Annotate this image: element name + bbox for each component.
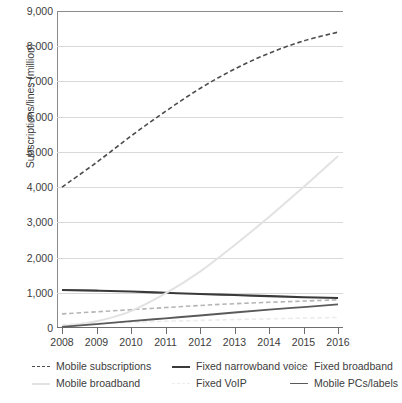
x-axis-tick-mark	[338, 328, 339, 334]
legend-swatch-icon	[172, 362, 190, 372]
y-axis-tick-label: 7,000	[7, 75, 53, 87]
series-line	[62, 304, 338, 327]
y-axis-tick-label: 2,000	[7, 252, 53, 264]
x-axis-tick-label: 2013	[223, 336, 246, 348]
x-axis-tick-mark	[97, 328, 98, 334]
legend-item[interactable]: Fixed narrowband voice	[172, 361, 307, 372]
y-axis-tick-label: 3,000	[7, 216, 53, 228]
x-axis-tick-label: 2014	[257, 336, 280, 348]
legend-item[interactable]: Mobile subscriptions	[32, 361, 151, 372]
legend-row: Mobile subscriptionsFixed narrowband voi…	[22, 358, 394, 375]
x-axis-tick-label: 2009	[85, 336, 108, 348]
y-axis-tick-label: 8,000	[7, 40, 53, 52]
x-axis-tick-label: 2015	[292, 336, 315, 348]
legend-label: Mobile PCs/labels	[314, 378, 398, 389]
legend-label: Mobile broadband	[56, 378, 140, 389]
y-axis-tick-label: 0	[7, 322, 53, 334]
chart-legend: Mobile subscriptionsFixed narrowband voi…	[22, 358, 394, 392]
x-axis-tick-label: 2008	[50, 336, 73, 348]
series-line	[62, 32, 338, 187]
series-line	[62, 290, 338, 298]
x-axis-tick-label: 2012	[188, 336, 211, 348]
legend-swatch-icon	[32, 362, 50, 372]
x-axis-tick-mark	[304, 328, 305, 334]
x-axis-tick-mark	[62, 328, 63, 334]
y-axis-tick-label: 9,000	[7, 5, 53, 17]
chart-figure: Subscriptions/lines (million) 01,0002,00…	[0, 0, 402, 403]
legend-item[interactable]: Fixed VoIP	[172, 378, 247, 389]
x-axis-tick-label: 2010	[119, 336, 142, 348]
x-axis-tick-mark	[235, 328, 236, 334]
legend-swatch-icon	[32, 379, 50, 389]
legend-swatch-icon	[290, 362, 308, 372]
legend-item[interactable]: Fixed broadband	[290, 361, 393, 372]
y-axis-tick-label: 1,000	[7, 287, 53, 299]
plot-area	[57, 11, 343, 328]
series-lines	[57, 11, 343, 328]
legend-label: Fixed VoIP	[196, 378, 247, 389]
x-axis-tick-mark	[131, 328, 132, 334]
x-axis-tick-mark	[200, 328, 201, 334]
x-axis-tick-mark	[166, 328, 167, 334]
x-axis-tick-label: 2016	[326, 336, 349, 348]
legend-swatch-icon	[172, 379, 190, 389]
legend-label: Mobile subscriptions	[56, 361, 151, 372]
legend-row: Mobile broadbandFixed VoIPMobile PCs/lab…	[22, 375, 394, 392]
x-axis-tick-label: 2011	[154, 336, 177, 348]
legend-swatch-icon	[290, 379, 308, 389]
legend-item[interactable]: Mobile broadband	[32, 378, 140, 389]
legend-label: Fixed broadband	[314, 361, 393, 372]
y-axis-tick-label: 4,000	[7, 181, 53, 193]
x-axis-tick-mark	[269, 328, 270, 334]
y-axis-tick-label: 6,000	[7, 111, 53, 123]
y-axis-tick-label: 5,000	[7, 146, 53, 158]
legend-item[interactable]: Mobile PCs/labels	[290, 378, 398, 389]
